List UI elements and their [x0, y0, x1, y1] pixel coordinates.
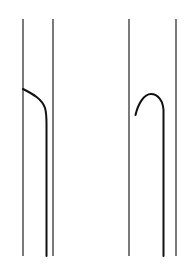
left-panel-bend-curve [23, 89, 47, 256]
right-panel-arch-curve [136, 94, 164, 256]
diagram-canvas [0, 0, 194, 268]
left-panel [23, 19, 53, 256]
right-panel [129, 19, 176, 256]
